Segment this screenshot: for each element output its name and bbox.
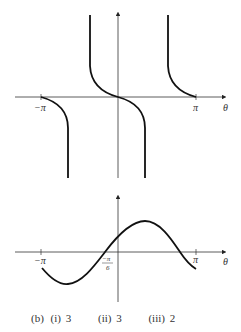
answer-iii-value: 2 — [170, 312, 176, 324]
answer-i-label: (i) — [51, 312, 61, 324]
top-label-theta: θ — [223, 102, 228, 113]
bottom-label-pi: π — [193, 254, 199, 265]
bottom-label-neg-pi-over-6-num: −π — [102, 255, 111, 263]
bottom-label-neg-pi-over-6-den: 6 — [106, 264, 110, 272]
bottom-label-neg-pi: −π — [34, 255, 47, 266]
top-curve-upper-left — [90, 15, 118, 97]
answer-i-value: 3 — [66, 312, 72, 324]
bottom-label-theta: θ — [223, 256, 228, 267]
figure-canvas: −π π θ −π −π 6 π θ — [0, 0, 241, 332]
top-curve-upper-right — [168, 15, 196, 97]
answer-iii-label: (iii) — [148, 312, 165, 324]
caption-part: (b) — [31, 312, 44, 324]
answer-ii-label: (ii) — [98, 312, 111, 324]
top-graph: −π π θ — [15, 14, 228, 178]
top-label-pi: π — [193, 102, 199, 113]
bottom-graph: −π −π 6 π θ — [15, 197, 228, 302]
top-label-neg-pi: −π — [34, 102, 47, 113]
caption: (b) (i) 3 (ii) 3 (iii) 2 — [31, 312, 175, 324]
top-curve-lower-center — [118, 97, 145, 178]
bottom-sine-curve — [42, 221, 196, 284]
answer-ii-value: 3 — [116, 312, 122, 324]
